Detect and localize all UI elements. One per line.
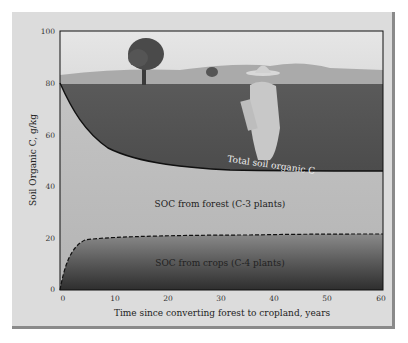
- y-axis: 100 80 60 40 20 0 Soil Organic C, g/kg: [28, 27, 55, 294]
- x-axis: 0 10 20 30 40 50 60 Time since convertin…: [61, 294, 386, 318]
- y-tick: 100: [41, 27, 56, 36]
- x-tick: 50: [322, 294, 332, 303]
- y-axis-label: Soil Organic C, g/kg: [28, 114, 38, 206]
- y-tick: 60: [45, 131, 55, 140]
- x-tick: 40: [269, 294, 279, 303]
- x-tick: 60: [376, 294, 386, 303]
- x-tick: 30: [216, 294, 226, 303]
- y-tick: 40: [45, 182, 55, 191]
- y-tick: 80: [45, 79, 55, 88]
- x-axis-label: Time since converting forest to cropland…: [114, 308, 331, 318]
- chart: Total soil organic C SOC from forest (C-…: [0, 0, 408, 343]
- y-tick: 20: [45, 234, 55, 243]
- y-tick: 0: [50, 285, 55, 294]
- x-tick: 10: [110, 294, 120, 303]
- x-tick: 0: [61, 294, 66, 303]
- crops-region-label: SOC from crops (C-4 plants): [155, 258, 284, 268]
- forest-region-label: SOC from forest (C-3 plants): [155, 199, 286, 209]
- x-tick: 20: [163, 294, 173, 303]
- bush-icon: [206, 67, 218, 77]
